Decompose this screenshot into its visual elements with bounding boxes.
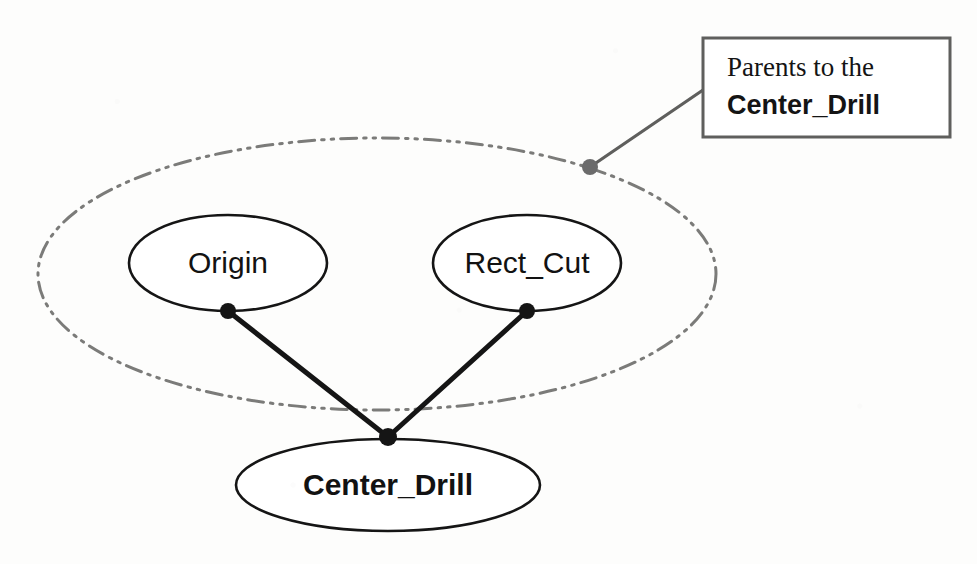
node-rect-cut[interactable]: Rect_Cut — [433, 215, 621, 319]
parents-callout-leader — [582, 90, 703, 175]
node-rect-cut-label: Rect_Cut — [464, 246, 590, 279]
node-origin-connector-dot — [220, 303, 236, 319]
callout-leader-line — [590, 90, 703, 167]
node-center-drill-label: Center_Drill — [303, 468, 473, 501]
node-origin-label: Origin — [188, 246, 268, 279]
node-rect-cut-connector-dot — [519, 303, 535, 319]
callout-text-line1: Parents to the — [727, 52, 874, 82]
node-center-drill[interactable]: Center_Drill — [236, 428, 540, 531]
edge-origin-center-drill — [228, 311, 388, 437]
node-center-drill-connector-dot — [379, 428, 397, 446]
callout-anchor-dot — [582, 159, 598, 175]
edge-rect-cut-center-drill — [388, 311, 527, 437]
node-origin[interactable]: Origin — [129, 215, 327, 319]
callout-text-line2: Center_Drill — [727, 90, 880, 120]
diagram-canvas: Origin Rect_Cut Center_Drill Parents to … — [0, 0, 977, 564]
parents-callout: Parents to the Center_Drill — [703, 38, 950, 137]
diagram-svg: Origin Rect_Cut Center_Drill Parents to … — [0, 0, 977, 564]
